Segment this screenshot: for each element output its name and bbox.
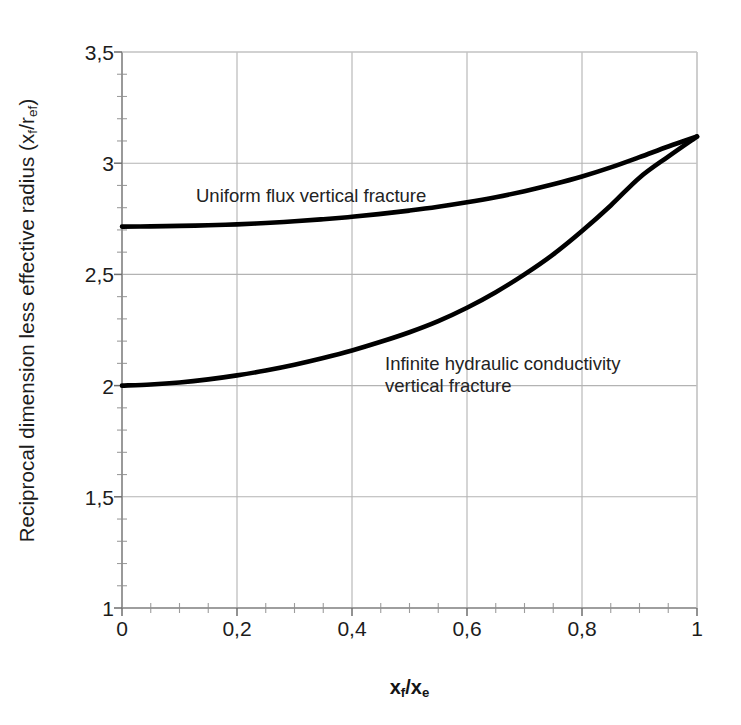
annotation-infinite-line2: vertical fracture bbox=[385, 375, 620, 397]
minor-tick-marks bbox=[117, 74, 668, 613]
series-line-uniform-flux bbox=[122, 137, 697, 227]
series-line-infinite-conductivity bbox=[122, 137, 697, 386]
annotation-infinite-line1: Infinite hydraulic conductivity bbox=[385, 353, 620, 375]
annotation-uniform-flux: Uniform flux vertical fracture bbox=[196, 185, 426, 207]
x-axis-title: xf/xe bbox=[122, 676, 697, 700]
chart-figure: Reciprocal dimension less effective radi… bbox=[0, 0, 741, 725]
plot-area bbox=[0, 0, 741, 725]
annotation-infinite-conductivity: Infinite hydraulic conductivity vertical… bbox=[385, 353, 620, 397]
